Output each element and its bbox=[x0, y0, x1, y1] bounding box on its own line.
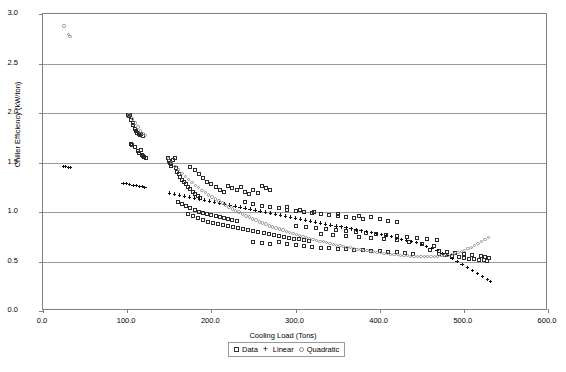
data-point bbox=[327, 213, 331, 217]
data-point bbox=[216, 222, 220, 226]
data-point bbox=[455, 260, 458, 263]
x-tickmark bbox=[211, 309, 212, 313]
data-point bbox=[178, 193, 181, 196]
data-point bbox=[324, 222, 327, 225]
data-point bbox=[139, 148, 143, 152]
data-point bbox=[256, 191, 260, 195]
data-point bbox=[354, 228, 357, 231]
data-point bbox=[314, 226, 318, 230]
data-point bbox=[251, 240, 255, 244]
data-point bbox=[324, 227, 328, 231]
y-tick-label: 0.0 bbox=[0, 306, 18, 314]
y-tick-label: 2.5 bbox=[0, 59, 18, 67]
data-point bbox=[450, 257, 453, 260]
data-point bbox=[297, 237, 301, 241]
data-point bbox=[369, 236, 373, 240]
data-point bbox=[277, 234, 281, 238]
data-point bbox=[312, 210, 316, 214]
data-point bbox=[457, 255, 461, 259]
data-point bbox=[256, 230, 260, 234]
open-circle-icon bbox=[299, 347, 304, 352]
data-point bbox=[319, 246, 323, 250]
y-tickmark bbox=[39, 14, 43, 15]
data-point bbox=[298, 208, 302, 212]
data-point bbox=[357, 235, 361, 239]
data-point bbox=[284, 214, 287, 217]
data-point bbox=[359, 229, 362, 232]
data-point bbox=[144, 134, 147, 137]
y-tick-label: 0.5 bbox=[0, 257, 18, 265]
data-point bbox=[336, 247, 340, 251]
data-point bbox=[260, 241, 264, 245]
y-tick-label: 1.5 bbox=[0, 158, 18, 166]
data-point bbox=[241, 227, 245, 231]
data-point bbox=[282, 235, 286, 239]
data-point bbox=[226, 224, 230, 228]
x-tick-label: 300.0 bbox=[272, 317, 318, 325]
data-point bbox=[349, 227, 352, 230]
chart-legend: Data+LinearQuadratic bbox=[228, 342, 345, 357]
data-point bbox=[327, 246, 331, 250]
data-point bbox=[62, 24, 65, 27]
data-point bbox=[395, 237, 398, 240]
data-point bbox=[269, 211, 272, 214]
data-point bbox=[235, 219, 239, 223]
data-point bbox=[467, 257, 471, 261]
chart-container: Chiller Efficiency (kW/ton) 0.00.51.01.5… bbox=[0, 0, 566, 372]
data-point bbox=[304, 225, 308, 229]
data-point bbox=[221, 223, 225, 227]
gridline-y bbox=[43, 163, 546, 164]
data-point bbox=[487, 256, 491, 260]
data-point bbox=[127, 113, 130, 116]
data-point bbox=[425, 245, 428, 248]
data-point bbox=[238, 205, 241, 208]
data-point bbox=[69, 166, 72, 169]
x-tick-label: 600.0 bbox=[524, 317, 566, 325]
data-point bbox=[213, 200, 216, 203]
data-point bbox=[211, 221, 215, 225]
legend-item-linear[interactable]: +Linear bbox=[263, 345, 294, 354]
data-point bbox=[294, 243, 298, 247]
data-point bbox=[143, 186, 146, 189]
data-point bbox=[460, 263, 463, 266]
x-tickmark bbox=[380, 309, 381, 313]
data-point bbox=[190, 181, 193, 184]
data-point bbox=[268, 188, 272, 192]
legend-label: Quadratic bbox=[307, 345, 340, 354]
data-point bbox=[289, 215, 292, 218]
data-point bbox=[173, 192, 176, 195]
x-tickmark bbox=[464, 309, 465, 313]
x-tick-label: 100.0 bbox=[103, 317, 149, 325]
x-tick-label: 400.0 bbox=[356, 317, 402, 325]
data-point bbox=[430, 247, 433, 250]
data-point bbox=[302, 244, 306, 248]
data-point bbox=[380, 233, 383, 236]
legend-item-data[interactable]: Data bbox=[234, 345, 258, 354]
data-point bbox=[395, 220, 399, 224]
y-tickmark bbox=[39, 212, 43, 213]
data-point bbox=[319, 232, 323, 236]
data-point bbox=[243, 206, 246, 209]
data-point bbox=[405, 239, 408, 242]
data-point bbox=[365, 230, 368, 233]
data-point bbox=[420, 243, 423, 246]
data-point bbox=[476, 242, 479, 245]
data-point bbox=[386, 219, 390, 223]
data-point bbox=[310, 245, 314, 249]
y-tick-label: 2.0 bbox=[0, 108, 18, 116]
legend-label: Data bbox=[242, 345, 258, 354]
data-point bbox=[268, 205, 272, 209]
data-point bbox=[481, 275, 484, 278]
data-point bbox=[370, 231, 373, 234]
legend-item-quadratic[interactable]: Quadratic bbox=[299, 345, 340, 354]
data-point bbox=[285, 205, 289, 209]
data-point bbox=[471, 269, 474, 272]
y-tickmark bbox=[39, 163, 43, 164]
data-point bbox=[253, 208, 256, 211]
data-point bbox=[239, 185, 243, 189]
x-tickmark bbox=[127, 309, 128, 313]
data-point bbox=[198, 197, 201, 200]
x-tick-label: 0.0 bbox=[19, 317, 65, 325]
data-point bbox=[186, 212, 190, 216]
data-point bbox=[208, 199, 211, 202]
